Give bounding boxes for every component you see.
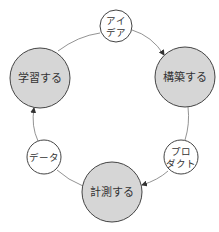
node-data: データ xyxy=(27,140,61,174)
data-label: データ xyxy=(29,152,59,163)
connector-build-to-product xyxy=(185,107,189,140)
node-ideas: アイ デア xyxy=(100,10,132,42)
connector-product-to-measure xyxy=(142,171,168,185)
learn-label: 学習する xyxy=(18,71,62,85)
node-build: 構築する xyxy=(155,47,215,107)
connector-ideas-to-build xyxy=(132,30,164,55)
connector-measure-to-data xyxy=(57,170,83,186)
measure-label: 計測する xyxy=(90,185,134,199)
build-label: 構築する xyxy=(163,70,207,84)
connector-data-to-learn xyxy=(33,108,38,141)
connector-learn-to-ideas xyxy=(58,33,100,51)
build-measure-learn-diagram: アイ デア 構築する プロ ダクト 計測する データ 学習する xyxy=(0,0,219,232)
product-label-line2: ダクト xyxy=(166,158,196,169)
ideas-label-line1: アイ xyxy=(106,15,126,26)
node-measure: 計測する xyxy=(82,162,142,222)
node-product: プロ ダクト xyxy=(164,140,198,174)
product-label-line1: プロ xyxy=(171,146,191,157)
node-learn: 学習する xyxy=(10,48,70,108)
ideas-label-line2: デア xyxy=(106,27,126,38)
